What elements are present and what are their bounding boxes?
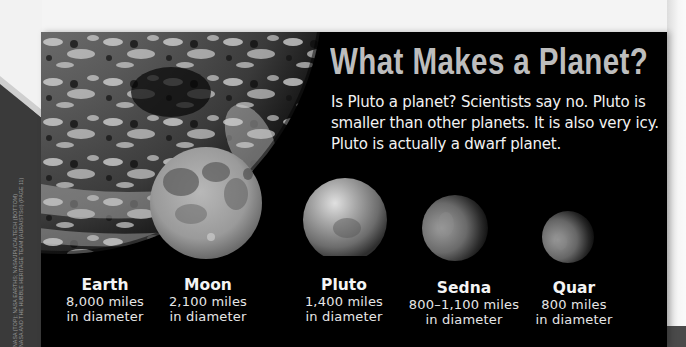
body-diameter-unit: in diameter	[294, 309, 394, 324]
body-label-sedna: Sedna 800–1,100 miles in diameter	[399, 279, 529, 327]
body-diameter-unit: in diameter	[527, 312, 621, 327]
pluto-image	[303, 178, 387, 266]
sedna-image	[422, 195, 488, 261]
quaoar-image	[542, 211, 594, 263]
body-diameter-unit: in diameter	[55, 309, 155, 324]
body-label-moon: Moon 2,100 miles in diameter	[158, 276, 258, 324]
body-name: Sedna	[399, 279, 529, 297]
photo-credit-line: NASA AND THE HUBBLE HERITAGE TEAM (AURA/…	[18, 177, 24, 347]
body-diameter: 8,000 miles	[55, 294, 155, 309]
body-diameter-unit: in diameter	[399, 312, 529, 327]
body-name: Moon	[158, 276, 258, 294]
body-name: Earth	[55, 276, 155, 294]
intro-paragraph: Is Pluto a planet? Scientists say no. Pl…	[331, 92, 661, 155]
moon-image	[150, 147, 262, 259]
body-diameter: 2,100 miles	[158, 294, 258, 309]
body-diameter: 1,400 miles	[294, 294, 394, 309]
photo-credit: NASA (TOP); NASA EARTHS; NASA/JPL/CALTEC…	[12, 177, 25, 347]
body-name: Pluto	[294, 276, 394, 294]
page-margin-right	[667, 0, 686, 347]
body-label-quaoar: Quar 800 miles in diameter	[527, 279, 621, 327]
body-diameter: 800 miles	[527, 297, 621, 312]
body-label-pluto: Pluto 1,400 miles in diameter	[294, 276, 394, 324]
next-page-edge	[667, 326, 686, 347]
page-title: What Makes a Planet?	[330, 42, 648, 82]
body-name: Quar	[527, 279, 621, 297]
body-diameter: 800–1,100 miles	[399, 297, 529, 312]
body-diameter-unit: in diameter	[158, 309, 258, 324]
body-label-earth: Earth 8,000 miles in diameter	[55, 276, 155, 324]
space-panel: What Makes a Planet? Is Pluto a planet? …	[41, 32, 667, 347]
